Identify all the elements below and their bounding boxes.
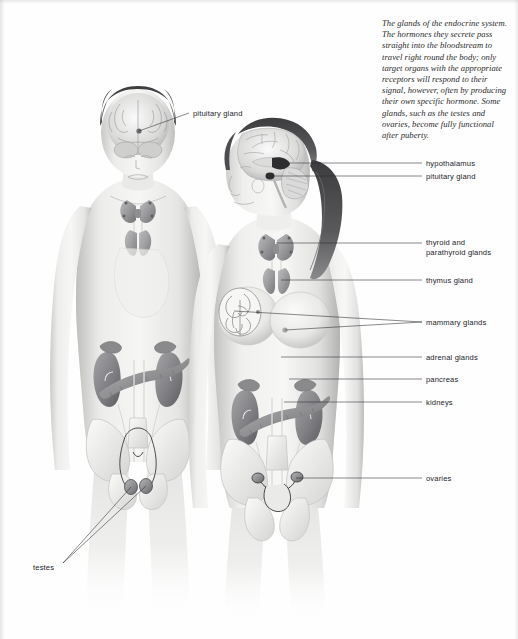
label-ovaries: ovaries bbox=[426, 474, 452, 484]
label-thymus-gland: thymus gland bbox=[426, 276, 473, 286]
label-mammary-glands: mammary glands bbox=[426, 318, 486, 328]
label-kidneys: kidneys bbox=[426, 398, 453, 408]
figure-caption: The glands of the endocrine system. The … bbox=[382, 18, 508, 141]
label-hypothalamus: hypothalamus bbox=[426, 159, 475, 169]
label-pituitary-gland-male: pituitary gland bbox=[193, 109, 243, 119]
label-thyroid-and-parathyroid-glands: thyroid and parathyroid glands bbox=[426, 238, 491, 257]
label-adrenal-glands: adrenal glands bbox=[426, 353, 478, 363]
ovary-right bbox=[291, 472, 303, 482]
label-pituitary-gland-female: pituitary gland bbox=[426, 172, 476, 182]
ovary-left bbox=[252, 473, 264, 483]
illustration-page: The glands of the endocrine system. The … bbox=[0, 0, 518, 639]
label-pancreas: pancreas bbox=[426, 375, 458, 385]
label-testes: testes bbox=[33, 563, 54, 573]
